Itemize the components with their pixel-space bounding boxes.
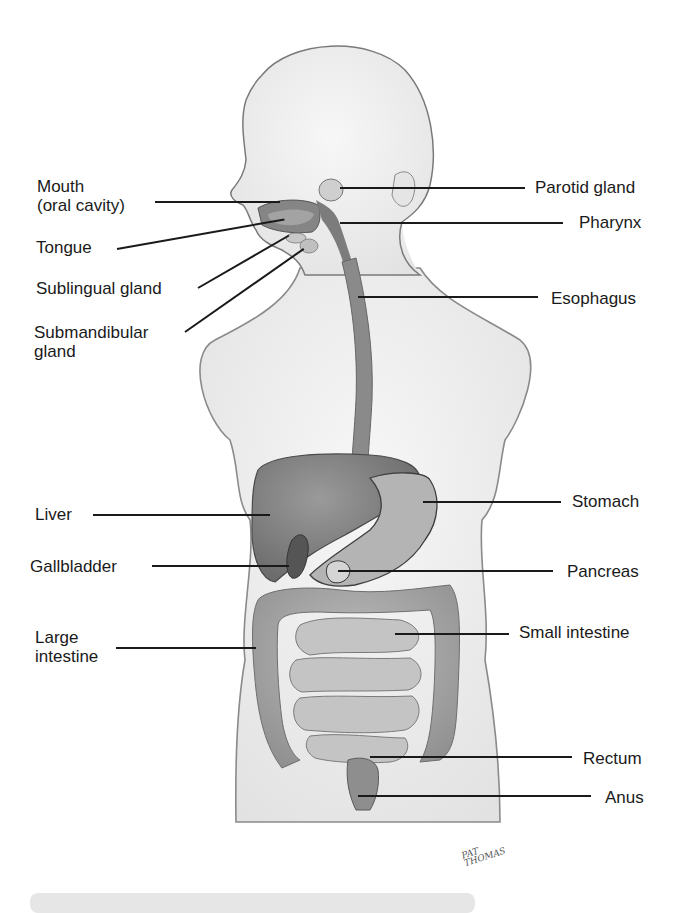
label-large-intestine-line2: intestine [35,647,98,666]
label-mouth-line2: (oral cavity) [37,196,125,215]
parotid-gland-shape [319,179,343,201]
leader-line-rectum [370,756,572,758]
leader-line-pancreas [338,570,553,572]
leader-line-mouth [155,201,280,203]
label-rectum: Rectum [583,749,642,768]
label-mouth: Mouth (oral cavity) [37,177,125,215]
leader-line-anus [358,795,591,797]
leader-line-large-intestine [116,647,256,649]
label-anus: Anus [605,788,644,807]
label-large-intestine: Large intestine [35,628,98,666]
label-small-intestine: Small intestine [519,623,630,642]
label-tongue: Tongue [36,238,92,257]
label-liver: Liver [35,505,72,524]
leader-line-liver [93,514,270,516]
label-submandibular-gland: Submandibular gland [34,323,148,361]
leader-line-esophagus [358,296,538,298]
leader-line-pharynx [340,222,563,224]
leader-line-gallbladder [152,565,289,567]
label-pharynx: Pharynx [579,213,641,232]
label-gallbladder: Gallbladder [30,557,117,576]
label-submandibular-line2: gland [34,342,148,361]
label-mouth-line1: Mouth [37,177,125,196]
small-intestine-coils [290,618,421,763]
submandibular-gland-shape [300,239,318,253]
label-large-intestine-line1: Large [35,628,98,647]
label-sublingual-gland: Sublingual gland [36,279,162,298]
label-submandibular-line1: Submandibular [34,323,148,342]
ear [392,172,415,207]
label-stomach: Stomach [572,492,639,511]
leader-line-small-intestine [395,633,509,635]
caption-bar [30,893,475,913]
label-esophagus: Esophagus [551,289,636,308]
label-parotid-gland: Parotid gland [535,178,635,197]
leader-line-parotid [340,187,525,189]
label-pancreas: Pancreas [567,562,639,581]
leader-line-stomach [423,501,561,503]
